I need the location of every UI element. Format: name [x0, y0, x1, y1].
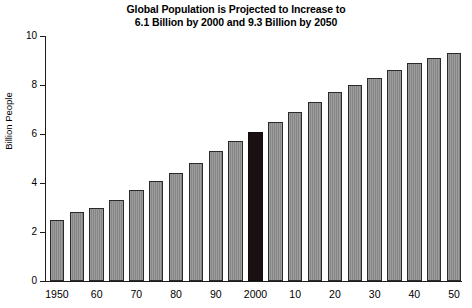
bar-2045: [427, 58, 441, 281]
bar-2035: [387, 70, 401, 281]
y-axis-tick: 2: [40, 232, 45, 233]
x-axis-tick-label: 10: [275, 288, 315, 301]
bar-1975: [149, 181, 163, 281]
y-axis-tick: 0: [40, 281, 45, 282]
y-axis-tick-label: 10: [26, 29, 37, 42]
bar-2015: [308, 102, 322, 281]
population-bar-chart: Global Population is Projected to Increa…: [0, 0, 472, 308]
bar-1980: [169, 173, 183, 281]
x-axis-tick-label: 40: [394, 288, 434, 301]
y-axis-label: Billion People: [3, 66, 17, 176]
bar-1965: [109, 200, 123, 281]
bar-1990: [209, 151, 223, 281]
bar-2000: [248, 132, 262, 281]
bars-layer: [45, 36, 462, 281]
bar-1970: [129, 190, 143, 281]
plot-area: 024681019506070809020001020304050: [45, 36, 462, 281]
y-axis-tick-label: 2: [31, 225, 37, 238]
y-axis-tick-label: 4: [31, 176, 37, 189]
y-axis-tick-label: 8: [31, 78, 37, 91]
bar-2010: [288, 112, 302, 281]
bar-2020: [328, 92, 342, 281]
chart-title: Global Population is Projected to Increa…: [0, 3, 472, 28]
y-axis-tick-label: 6: [31, 127, 37, 140]
bar-1995: [228, 141, 242, 281]
bar-1955: [70, 212, 84, 281]
x-axis-tick-label: 90: [196, 288, 236, 301]
bar-2030: [367, 78, 381, 281]
x-axis-tick-label: 1950: [37, 288, 77, 301]
y-axis-tick: 6: [40, 134, 45, 135]
x-axis-tick-label: 50: [434, 288, 472, 301]
x-axis-line: [45, 281, 462, 282]
bar-2050: [447, 53, 461, 281]
bar-2005: [268, 122, 282, 281]
bar-1950: [50, 220, 64, 281]
y-axis-tick: 8: [40, 85, 45, 86]
x-axis-tick-label: 20: [315, 288, 355, 301]
x-axis-tick-label: 80: [156, 288, 196, 301]
x-axis-tick-label: 30: [355, 288, 395, 301]
y-axis-tick: 10: [40, 36, 45, 37]
bar-2040: [407, 63, 421, 281]
bar-1960: [89, 208, 103, 282]
x-axis-tick-label: 60: [77, 288, 117, 301]
x-axis-tick-label: 2000: [236, 288, 276, 301]
y-axis-tick-label: 0: [31, 274, 37, 287]
x-axis-tick-label: 70: [116, 288, 156, 301]
bar-1985: [189, 163, 203, 281]
bar-2025: [348, 85, 362, 281]
y-axis-tick: 4: [40, 183, 45, 184]
